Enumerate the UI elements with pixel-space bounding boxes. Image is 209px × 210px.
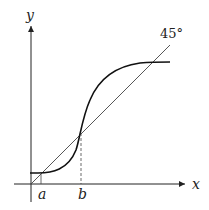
point-a-label: a (38, 186, 46, 202)
45-degree-label: 45° (160, 26, 183, 41)
x-axis-label: x (192, 176, 200, 192)
diagram-canvas: y x 45° a b (0, 0, 209, 210)
y-axis-label: y (25, 7, 35, 23)
45-degree-line (31, 45, 170, 184)
s-curve (30, 62, 170, 173)
point-b-label: b (78, 186, 87, 202)
